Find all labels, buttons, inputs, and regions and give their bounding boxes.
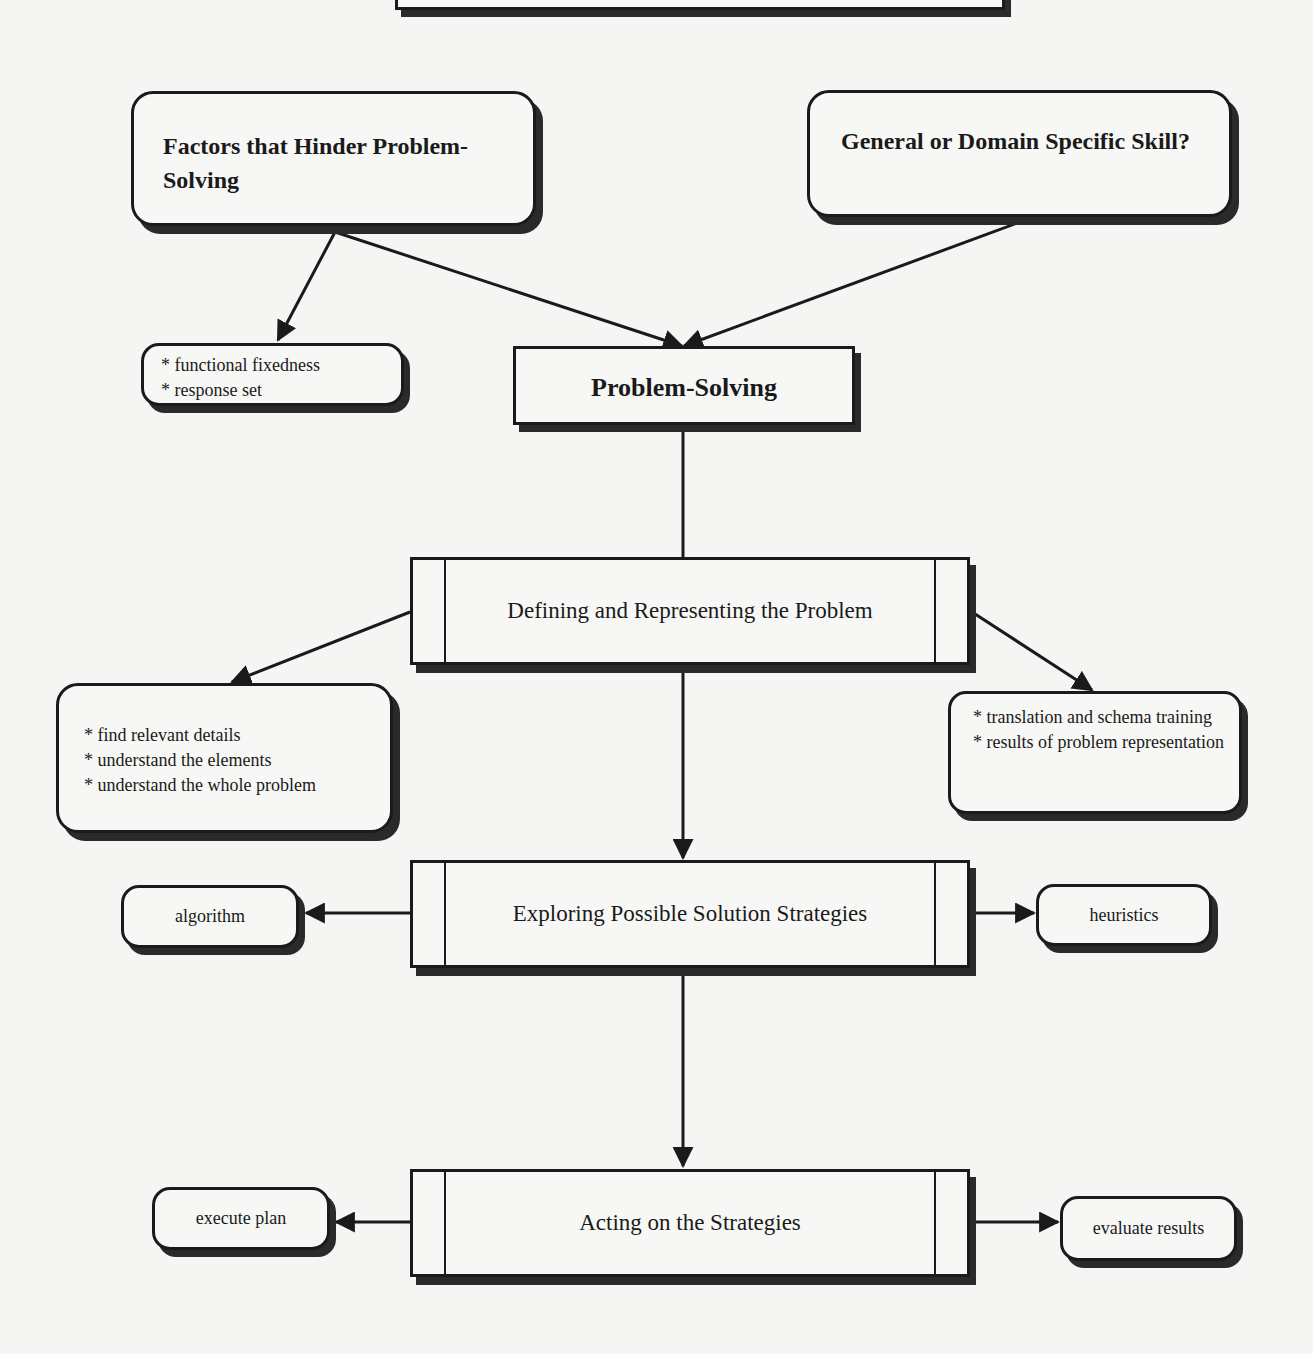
- defining-detail-3: * understand the whole problem: [84, 773, 390, 798]
- domain-skill-box: General or Domain Specific Skill?: [807, 90, 1232, 217]
- acting-strategies-step: Acting on the Strategies: [410, 1169, 970, 1277]
- evaluate-results-box: evaluate results: [1060, 1196, 1237, 1261]
- hinder-factors-list: * functional fixedness * response set: [141, 343, 404, 406]
- exploring-strategies-label: Exploring Possible Solution Strategies: [413, 863, 967, 965]
- heuristics-label: heuristics: [1039, 887, 1209, 943]
- execute-plan-box: execute plan: [152, 1187, 330, 1250]
- top-box-partial: [395, 0, 1005, 10]
- evaluate-results-label: evaluate results: [1063, 1199, 1234, 1258]
- defining-problem-label: Defining and Representing the Problem: [413, 560, 967, 662]
- hinder-list-item-2: * response set: [161, 378, 401, 403]
- hinder-list-item-1: * functional fixedness: [161, 353, 401, 378]
- problem-solving-label: Problem-Solving: [516, 349, 852, 422]
- representation-item-2: * results of problem representation: [973, 730, 1225, 755]
- hinder-factors-box: Factors that Hinder Problem-Solving: [131, 91, 536, 226]
- defining-problem-step: Defining and Representing the Problem: [410, 557, 970, 665]
- defining-details-list: * find relevant details * understand the…: [56, 683, 393, 833]
- exploring-strategies-step: Exploring Possible Solution Strategies: [410, 860, 970, 968]
- defining-detail-1: * find relevant details: [84, 723, 390, 748]
- hinder-factors-title: Factors that Hinder Problem-Solving: [163, 129, 505, 197]
- defining-detail-2: * understand the elements: [84, 748, 390, 773]
- execute-plan-label: execute plan: [155, 1190, 327, 1247]
- heuristics-box: heuristics: [1036, 884, 1212, 946]
- representation-item-1: * translation and schema training: [973, 705, 1225, 730]
- problem-solving-box: Problem-Solving: [513, 346, 855, 425]
- acting-strategies-label: Acting on the Strategies: [413, 1172, 967, 1274]
- domain-skill-title: General or Domain Specific Skill?: [841, 124, 1201, 158]
- algorithm-label: algorithm: [124, 888, 296, 945]
- algorithm-box: algorithm: [121, 885, 299, 948]
- representation-results-list: * translation and schema training * resu…: [948, 691, 1242, 814]
